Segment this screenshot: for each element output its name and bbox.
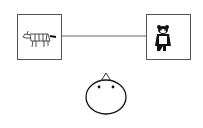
round-head-with-hat-icon: [86, 73, 126, 114]
diagram-canvas: [0, 0, 203, 128]
left-eye: [98, 86, 101, 89]
right-eye: [112, 86, 115, 89]
head-outline: [86, 80, 126, 114]
